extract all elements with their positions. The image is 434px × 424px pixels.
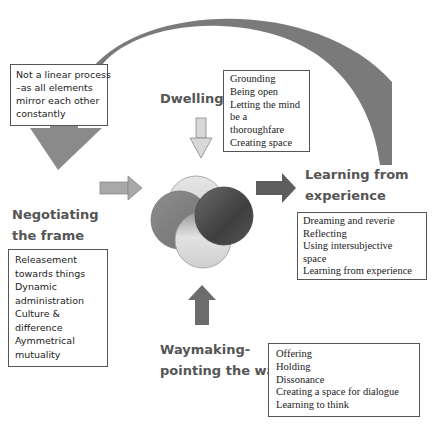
negotiating-item: Releasement [15, 253, 101, 267]
negotiating-item: Culture & [15, 307, 101, 321]
waymaking-box: Offering Holding Dissonance Creating a s… [268, 343, 420, 417]
note-line: mirror each other [16, 94, 102, 107]
negotiating-item: administration [15, 294, 101, 308]
waymaking-item: Offering [276, 348, 412, 361]
note-line: constantly [16, 107, 102, 120]
note-line: Not a linear process [16, 68, 102, 81]
learning-item: Dreaming and reverie [303, 215, 421, 228]
learning-box: Dreaming and reverie Reflecting Using in… [297, 212, 427, 280]
dwelling-item: Grounding [230, 73, 303, 86]
negotiating-item: mutuality [15, 348, 101, 362]
negotiating-box: Releasement towards things Dynamic admin… [8, 249, 108, 367]
waymaking-title: Waymaking- pointing the way [160, 339, 283, 381]
dwelling-box: Grounding Being open Letting the mind be… [223, 70, 310, 152]
waymaking-item: Learning to think [276, 399, 412, 412]
dwelling-item: be a [230, 111, 303, 124]
dwelling-item: Creating space [230, 137, 303, 150]
up-arrow [188, 285, 216, 325]
note-line: –as all elements [16, 81, 102, 94]
overlapping-circles [151, 176, 253, 268]
negotiating-item: towards things [15, 267, 101, 281]
waymaking-item: Creating a space for dialogue [276, 386, 412, 399]
right-arrow-dark [256, 173, 296, 203]
negotiating-item: Dynamic [15, 280, 101, 294]
right-arrow-mid [100, 176, 142, 200]
note-box: Not a linear process –as all elements mi… [10, 64, 108, 126]
waymaking-item: Holding [276, 361, 412, 374]
down-arrow-light [190, 118, 212, 158]
learning-item: space [303, 253, 421, 266]
learning-item: Using intersubjective [303, 240, 421, 253]
dwelling-item: Being open [230, 86, 303, 99]
waymaking-item: Dissonance [276, 374, 412, 387]
negotiating-title: Negotiating the frame [12, 204, 99, 246]
learning-item: Learning from experience [303, 265, 421, 278]
dwelling-item: thoroughfare [230, 124, 303, 137]
learning-title: Learning from experience [305, 164, 409, 206]
negotiating-item: Aymmetrical [15, 334, 101, 348]
learning-item: Reflecting [303, 228, 421, 241]
negotiating-item: difference [15, 321, 101, 335]
dwelling-item: Letting the mind [230, 99, 303, 112]
dwelling-title: Dwelling [160, 90, 224, 108]
